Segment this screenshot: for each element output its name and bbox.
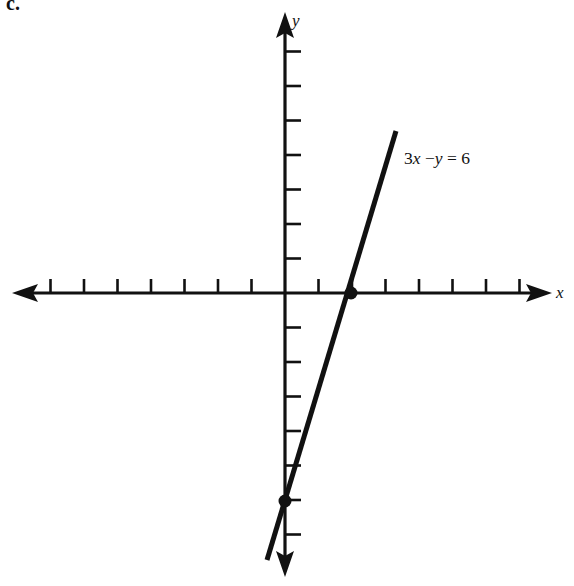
equation-coefficient: 3 [404,148,413,168]
y-axis-label: y [292,12,300,29]
x-intercept-point [345,287,358,300]
coordinate-plane [0,0,574,586]
x-axis-ticks-negative [51,279,252,293]
equation-y-symbol: y [435,148,443,168]
graph-figure: c. [0,0,574,586]
equation-equals-sign: = [443,148,462,168]
y-intercept-point [279,495,292,508]
equation-minus-sign: − [421,148,435,168]
equation-constant: 6 [461,148,470,168]
y-axis-ticks-positive [285,52,301,259]
equation-x-symbol: x [413,148,421,168]
x-axis-label: x [556,284,564,301]
equation-annotation: 3x −y = 6 [404,148,470,168]
